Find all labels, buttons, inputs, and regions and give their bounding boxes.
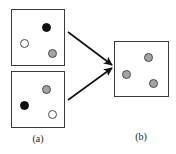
arrow-top-to-result	[68, 32, 112, 65]
panel-a-bottom-box	[11, 71, 65, 128]
token-white	[20, 39, 29, 48]
token-white	[48, 110, 57, 119]
panel-b-box	[114, 41, 169, 97]
token-gray	[42, 85, 51, 94]
token-gray	[149, 79, 158, 88]
caption-a: (a)	[18, 133, 58, 145]
panel-a-top-box	[11, 9, 65, 66]
arrow-bottom-to-result	[68, 68, 112, 100]
token-black	[42, 23, 51, 32]
token-gray	[122, 70, 131, 79]
figure-container: (a) (b)	[0, 0, 176, 154]
token-gray	[48, 49, 57, 58]
caption-b: (b)	[121, 131, 161, 143]
token-black	[20, 101, 29, 110]
token-gray	[144, 53, 153, 62]
